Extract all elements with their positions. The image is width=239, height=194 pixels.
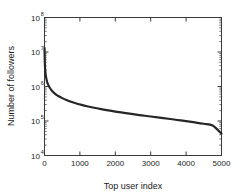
- x-tick-label: 3000: [142, 159, 160, 168]
- svg-text:5: 5: [41, 114, 44, 120]
- x-tick-label: 4000: [177, 159, 195, 168]
- svg-text:7: 7: [41, 45, 44, 51]
- svg-text:8: 8: [41, 11, 44, 17]
- x-tick-label: 2000: [106, 159, 124, 168]
- x-tick-label: 1000: [71, 159, 89, 168]
- svg-text:6: 6: [41, 80, 44, 86]
- svg-text:10: 10: [31, 14, 40, 23]
- svg-text:10: 10: [31, 83, 40, 92]
- svg-text:10: 10: [31, 117, 40, 126]
- x-axis-title: Top user index: [104, 181, 163, 191]
- svg-text:10: 10: [31, 48, 40, 57]
- svg-text:4: 4: [41, 149, 44, 155]
- x-tick-label: 5000: [213, 159, 231, 168]
- svg-text:10: 10: [31, 152, 40, 161]
- x-tick-label: 0: [42, 159, 47, 168]
- y-axis-title: Number of followers: [6, 45, 16, 126]
- followers-rank-chart: 104105106107108 010002000300040005000 To…: [0, 0, 239, 194]
- figure-canvas: 104105106107108 010002000300040005000 To…: [0, 0, 239, 194]
